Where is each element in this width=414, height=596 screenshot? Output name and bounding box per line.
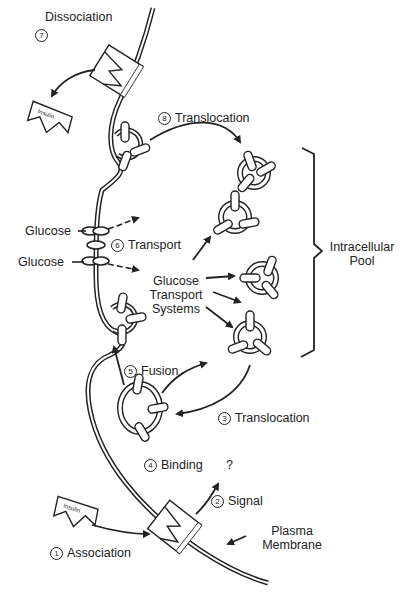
- step-6-number-badge: 6: [111, 239, 124, 252]
- pool-bracket: [301, 148, 322, 357]
- step-3-label: 3Translocation: [218, 411, 310, 425]
- pool-line-2: Pool: [322, 254, 402, 268]
- step-5-label-text: Fusion: [141, 364, 179, 378]
- insulin-glucose-transport-diagram: Insulin Insulin: [0, 0, 414, 596]
- glucose-transport-systems-label: Glucose Transport Systems: [142, 274, 210, 316]
- glucose-top-label: Glucose: [25, 224, 71, 238]
- step-5-label: 5Fusion: [124, 364, 179, 378]
- glucose-transporters: [82, 227, 109, 265]
- insulin-receptor-top: [90, 45, 144, 97]
- step-1-number-badge: 1: [50, 547, 63, 560]
- step-2-label-text: Signal: [228, 494, 263, 508]
- step-7-label-text: Dissociation: [45, 10, 112, 24]
- vesicle-pool-3: [240, 255, 279, 300]
- step-7-number: 7: [35, 28, 52, 42]
- step-3-label-text: Translocation: [235, 411, 310, 425]
- step-6-label: 6Transport: [111, 238, 181, 252]
- vesicle-pool-2: [212, 191, 259, 235]
- step-1-label: 1Association: [50, 546, 131, 560]
- membrane-line-2: Membrane: [252, 538, 332, 552]
- step-2-number-badge: 2: [211, 495, 224, 508]
- gts-line-3: Systems: [142, 302, 210, 316]
- membrane-line-1: Plasma: [252, 524, 332, 538]
- glucose-bottom-label: Glucose: [18, 255, 64, 269]
- step-2-label: 2Signal: [211, 494, 263, 508]
- step-5-number-badge: 5: [124, 365, 137, 378]
- pool-line-1: Intracellular: [322, 240, 402, 254]
- gts-line-2: Transport: [142, 288, 210, 302]
- step-7-label: Dissociation: [45, 10, 112, 24]
- step-4-label: 4Binding: [144, 458, 203, 472]
- intracellular-pool-label: Intracellular Pool: [322, 240, 402, 268]
- gts-line-1: Glucose: [142, 274, 210, 288]
- vesicle-pool-4: [227, 311, 272, 356]
- step-4-number-badge: 4: [144, 459, 157, 472]
- step-1-label-text: Association: [67, 546, 131, 560]
- step-8-label-text: Translocation: [175, 111, 250, 125]
- signal-target-question: ?: [226, 458, 233, 472]
- step-4-label-text: Binding: [161, 458, 203, 472]
- step-6-label-text: Transport: [128, 238, 181, 252]
- step-8-number-badge: 8: [158, 112, 171, 125]
- insulin-molecule-top: Insulin: [24, 101, 74, 140]
- vesicle-binding: [120, 373, 169, 442]
- vesicle-pool-1: [237, 150, 277, 193]
- step-7-number-badge: 7: [35, 29, 48, 42]
- plasma-membrane-label: Plasma Membrane: [252, 524, 332, 552]
- insulin-molecule-bottom: Insulin: [51, 496, 100, 532]
- fused-vesicle-top: [116, 122, 151, 172]
- step-3-number-badge: 3: [218, 412, 231, 425]
- step-8-label: 8Translocation: [158, 111, 250, 125]
